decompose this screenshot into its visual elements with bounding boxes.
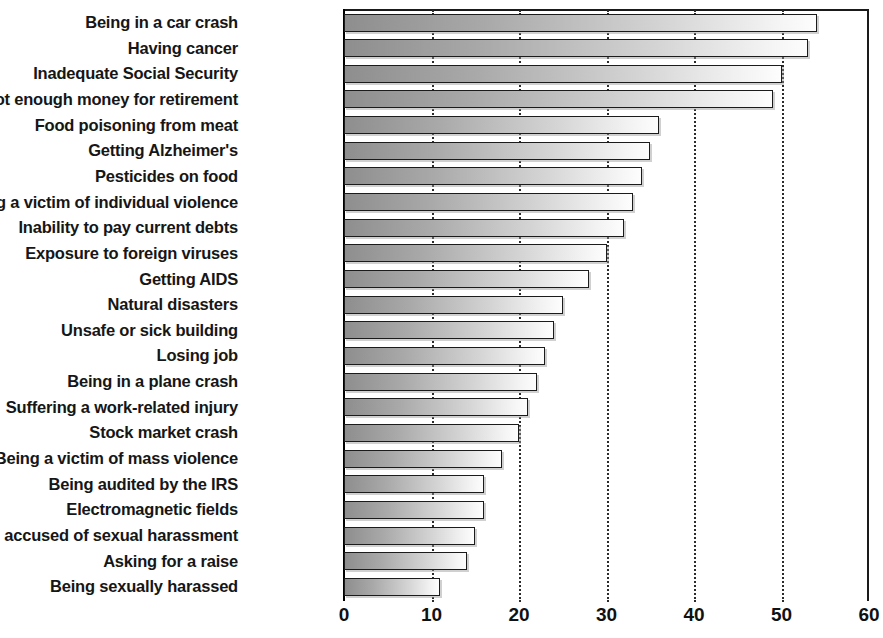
category-label: Natural disasters	[108, 292, 239, 318]
x-tick-label-10: 10	[402, 604, 462, 626]
category-label: Being in a plane crash	[67, 369, 238, 395]
bar-row: Getting Alzheimer's	[0, 138, 883, 164]
category-label: Food poisoning from meat	[35, 113, 238, 139]
bar-row: Being audited by the IRS	[0, 472, 883, 498]
bar-row: Not enough money for retirement	[0, 87, 883, 113]
bar-fill	[344, 14, 817, 32]
bar	[344, 527, 475, 545]
x-tick-label-40: 40	[664, 604, 724, 626]
bar-fill	[344, 527, 475, 545]
bar	[344, 424, 519, 442]
bar	[344, 321, 554, 339]
category-label: Not enough money for retirement	[0, 87, 238, 113]
bar-fill	[344, 142, 650, 160]
bar-fill	[344, 39, 808, 57]
bar	[344, 39, 808, 57]
category-label: Being sexually harassed	[50, 574, 238, 600]
bar	[344, 142, 650, 160]
bar-row: Inability to pay current debts	[0, 215, 883, 241]
category-label: Inadequate Social Security	[33, 61, 238, 87]
x-tick-label-30: 30	[577, 604, 637, 626]
bar-fill	[344, 347, 545, 365]
bar-fill	[344, 244, 607, 262]
bar-fill	[344, 193, 633, 211]
bar-row: Food poisoning from meat	[0, 113, 883, 139]
category-label: Inability to pay current debts	[18, 215, 238, 241]
bar-row: Having cancer	[0, 36, 883, 62]
category-label: Asking for a raise	[103, 549, 238, 575]
bar	[344, 14, 817, 32]
bar-fill	[344, 296, 563, 314]
category-label: Exposure to foreign viruses	[25, 241, 238, 267]
bar-fill	[344, 65, 782, 83]
bar-fill	[344, 167, 642, 185]
bar-row: Being sexually harassed	[0, 574, 883, 600]
bar-fill	[344, 270, 589, 288]
x-tick-label-20: 20	[489, 604, 549, 626]
x-tick-label-0: 0	[314, 604, 374, 626]
category-label: Suffering a work-related injury	[6, 395, 238, 421]
category-label: Being accused of sexual harassment	[0, 523, 238, 549]
bar-row: Being accused of sexual harassment	[0, 523, 883, 549]
bar-row: Unsafe or sick building	[0, 318, 883, 344]
x-tick-label-60: 60	[839, 604, 883, 626]
bar-row: Exposure to foreign viruses	[0, 241, 883, 267]
bar-fill	[344, 450, 502, 468]
x-tick-label-50: 50	[752, 604, 812, 626]
bar-row: Losing job	[0, 343, 883, 369]
category-label: Being audited by the IRS	[48, 472, 238, 498]
bar	[344, 296, 563, 314]
bar	[344, 578, 440, 596]
bar-fill	[344, 116, 659, 134]
bar	[344, 450, 502, 468]
bar	[344, 90, 773, 108]
bar-fill	[344, 321, 554, 339]
bar-fill	[344, 475, 484, 493]
bar-fill	[344, 552, 467, 570]
bar-row: Inadequate Social Security	[0, 61, 883, 87]
bar-fill	[344, 373, 537, 391]
category-label: Being a victim of individual violence	[0, 190, 238, 216]
bar	[344, 501, 484, 519]
bar-fill	[344, 424, 519, 442]
bar-fill	[344, 90, 773, 108]
bar-row: Getting AIDS	[0, 267, 883, 293]
bar-row: Natural disasters	[0, 292, 883, 318]
category-label: Losing job	[157, 343, 238, 369]
bar-row: Being a victim of mass violence	[0, 446, 883, 472]
category-label: Electromagnetic fields	[66, 497, 238, 523]
bar-row: Stock market crash	[0, 420, 883, 446]
bar-chart: Being in a car crashHaving cancerInadequ…	[0, 0, 883, 638]
bar	[344, 347, 545, 365]
bar	[344, 193, 633, 211]
category-label: Pesticides on food	[95, 164, 238, 190]
bar	[344, 475, 484, 493]
category-label: Getting AIDS	[139, 267, 238, 293]
bar-fill	[344, 501, 484, 519]
bar-row: Being in a plane crash	[0, 369, 883, 395]
bar-row: Pesticides on food	[0, 164, 883, 190]
bar-fill	[344, 578, 440, 596]
bar-row: Asking for a raise	[0, 549, 883, 575]
bar	[344, 552, 467, 570]
category-label: Unsafe or sick building	[61, 318, 238, 344]
bar	[344, 270, 589, 288]
bar-row: Being a victim of individual violence	[0, 190, 883, 216]
category-label: Being in a car crash	[85, 10, 238, 36]
bar	[344, 398, 528, 416]
bar-row: Electromagnetic fields	[0, 497, 883, 523]
bar-fill	[344, 219, 624, 237]
bar-row: Suffering a work-related injury	[0, 395, 883, 421]
bar-fill	[344, 398, 528, 416]
bar	[344, 373, 537, 391]
chart-title	[0, 0, 883, 3]
bar	[344, 219, 624, 237]
category-label: Being a victim of mass violence	[0, 446, 238, 472]
bar	[344, 116, 659, 134]
bar	[344, 244, 607, 262]
category-label: Getting Alzheimer's	[88, 138, 238, 164]
bar-row: Being in a car crash	[0, 10, 883, 36]
category-label: Stock market crash	[89, 420, 238, 446]
category-label: Having cancer	[128, 36, 238, 62]
bar	[344, 167, 642, 185]
